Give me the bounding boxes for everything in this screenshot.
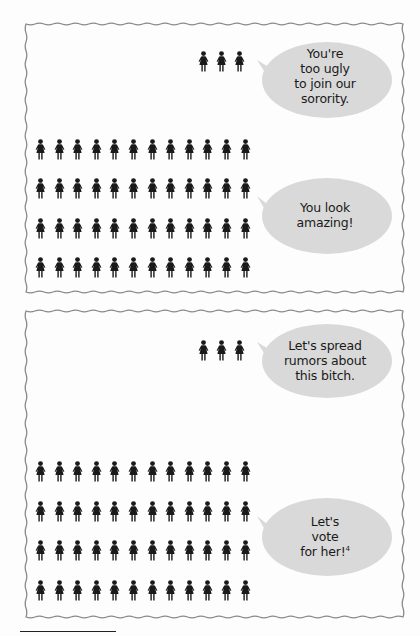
woman-silhouette-icon [147, 218, 158, 239]
woman-silhouette-icon [91, 139, 102, 160]
woman-silhouette-icon [128, 580, 139, 601]
woman-silhouette-icon [109, 501, 120, 522]
footnote-rule [20, 631, 116, 632]
woman-silhouette-icon [91, 218, 102, 239]
woman-silhouette-icon [216, 340, 227, 361]
woman-silhouette-icon [240, 139, 251, 160]
woman-silhouette-icon [234, 51, 245, 72]
speech-bubble-minority: Let's spread rumors about this bitch. [255, 322, 395, 400]
woman-silhouette-icon [165, 501, 176, 522]
woman-silhouette-icon [72, 501, 83, 522]
woman-silhouette-icon [109, 580, 120, 601]
woman-silhouette-icon [221, 139, 232, 160]
woman-silhouette-icon [202, 218, 213, 239]
woman-silhouette-icon [72, 461, 83, 482]
woman-silhouette-icon [72, 139, 83, 160]
speech-bubble-text: Let's spread rumors about this bitch. [255, 338, 395, 383]
woman-silhouette-icon [35, 461, 46, 482]
woman-silhouette-icon [202, 540, 213, 561]
woman-silhouette-icon [54, 139, 65, 160]
woman-silhouette-icon [128, 139, 139, 160]
woman-silhouette-icon [147, 257, 158, 278]
majority-row [35, 257, 251, 278]
woman-silhouette-icon [216, 51, 227, 72]
woman-silhouette-icon [202, 257, 213, 278]
woman-silhouette-icon [234, 340, 245, 361]
woman-silhouette-icon [221, 178, 232, 199]
bubble-line: rumors about [255, 353, 395, 368]
woman-silhouette-icon [240, 540, 251, 561]
bubble-line: You're [255, 46, 395, 61]
woman-silhouette-icon [109, 461, 120, 482]
woman-silhouette-icon [128, 178, 139, 199]
woman-silhouette-icon [240, 218, 251, 239]
woman-silhouette-icon [109, 139, 120, 160]
bubble-line: too ugly [255, 61, 395, 76]
bubble-line: this bitch. [255, 368, 395, 383]
woman-silhouette-icon [221, 580, 232, 601]
woman-silhouette-icon [72, 257, 83, 278]
speech-bubble-majority: Let's vote for her!4 [255, 496, 395, 578]
speech-bubble-text: You're too ugly to join our sorority. [255, 46, 395, 106]
woman-silhouette-icon [72, 540, 83, 561]
speech-bubble-text: You look amazing! [255, 200, 395, 230]
woman-silhouette-icon [202, 461, 213, 482]
woman-silhouette-icon [128, 461, 139, 482]
woman-silhouette-icon [109, 257, 120, 278]
woman-silhouette-icon [54, 461, 65, 482]
woman-silhouette-icon [72, 178, 83, 199]
woman-silhouette-icon [184, 218, 195, 239]
woman-silhouette-icon [35, 178, 46, 199]
woman-silhouette-icon [221, 218, 232, 239]
speech-bubble-majority: You look amazing! [255, 176, 395, 256]
majority-row [35, 178, 251, 199]
woman-silhouette-icon [35, 540, 46, 561]
panel-top: You're too ugly to join our sorority. [0, 0, 420, 300]
minority-group [198, 340, 245, 361]
woman-silhouette-icon [109, 178, 120, 199]
woman-silhouette-icon [54, 178, 65, 199]
woman-silhouette-icon [184, 580, 195, 601]
woman-silhouette-icon [35, 501, 46, 522]
footnote-marker[interactable]: 4 [346, 545, 350, 553]
woman-silhouette-icon [165, 178, 176, 199]
woman-silhouette-icon [240, 257, 251, 278]
woman-silhouette-icon [240, 501, 251, 522]
bubble-line: Let's [255, 514, 395, 529]
woman-silhouette-icon [128, 540, 139, 561]
woman-silhouette-icon [165, 139, 176, 160]
woman-silhouette-icon [128, 501, 139, 522]
woman-silhouette-icon [202, 139, 213, 160]
woman-silhouette-icon [147, 580, 158, 601]
woman-silhouette-icon [54, 540, 65, 561]
woman-silhouette-icon [221, 461, 232, 482]
woman-silhouette-icon [184, 257, 195, 278]
minority-group [198, 51, 245, 72]
speech-bubble-minority: You're too ugly to join our sorority. [255, 40, 395, 120]
woman-silhouette-icon [240, 178, 251, 199]
bubble-line-text: for her! [300, 544, 345, 559]
majority-row [35, 580, 251, 601]
woman-silhouette-icon [54, 580, 65, 601]
woman-silhouette-icon [35, 257, 46, 278]
majority-row [35, 501, 251, 522]
woman-silhouette-icon [147, 178, 158, 199]
woman-silhouette-icon [184, 178, 195, 199]
woman-silhouette-icon [184, 540, 195, 561]
woman-silhouette-icon [221, 501, 232, 522]
woman-silhouette-icon [240, 580, 251, 601]
woman-silhouette-icon [165, 257, 176, 278]
bubble-line: for her!4 [255, 544, 395, 559]
majority-row [35, 139, 251, 160]
bubble-line: You look [255, 200, 395, 215]
woman-silhouette-icon [54, 257, 65, 278]
panel-bottom: Let's spread rumors about this bitch. [0, 300, 420, 636]
bubble-line: amazing! [255, 215, 395, 230]
woman-silhouette-icon [147, 461, 158, 482]
woman-silhouette-icon [72, 218, 83, 239]
majority-row [35, 461, 251, 482]
woman-silhouette-icon [109, 218, 120, 239]
woman-silhouette-icon [35, 139, 46, 160]
woman-silhouette-icon [128, 218, 139, 239]
woman-silhouette-icon [91, 257, 102, 278]
